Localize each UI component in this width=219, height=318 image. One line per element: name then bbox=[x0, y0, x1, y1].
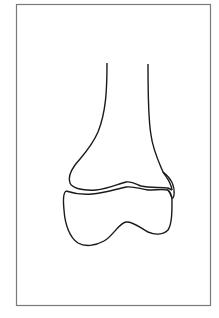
growth-plate-upper bbox=[70, 182, 172, 190]
lateral-lip bbox=[163, 172, 174, 198]
epiphysis-outline bbox=[63, 190, 172, 245]
bone-illustration: distal femur line drawing bbox=[0, 0, 219, 318]
shaft-right-outline bbox=[148, 64, 172, 190]
bone-diagram-svg bbox=[0, 0, 219, 318]
figure-frame bbox=[17, 5, 211, 306]
shaft-left-outline bbox=[69, 63, 107, 183]
